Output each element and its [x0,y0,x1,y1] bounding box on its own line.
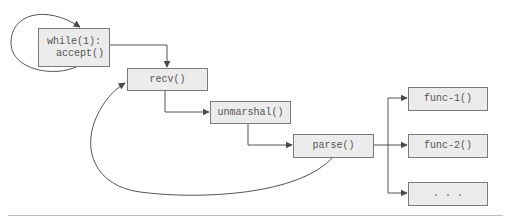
diagram-canvas: while(1): accept() recv() unmarshal() pa… [0,0,511,222]
accept-to-recv-arrow [109,45,167,67]
node-more-funcs-label: . . . [433,188,463,200]
node-accept-loop: while(1): accept() [38,28,110,67]
node-parse-label: parse() [312,140,354,152]
node-more-funcs: . . . [408,182,488,206]
bottom-divider [8,215,503,216]
node-recv-label: recv() [149,74,185,86]
node-recv: recv() [127,68,208,91]
node-unmarshal: unmarshal() [210,101,291,124]
node-accept-line-2: accept() [44,48,104,60]
node-func-1: func-1() [408,87,488,111]
node-unmarshal-label: unmarshal() [217,107,283,119]
node-func-1-label: func-1() [424,93,472,105]
recv-to-unmarshal-arrow [165,90,209,112]
node-parse: parse() [293,134,374,158]
node-func-2: func-2() [408,134,488,158]
node-accept-line-1: while(1): [47,36,101,48]
unmarshal-to-parse-arrow [248,123,292,145]
node-func-2-label: func-2() [424,140,472,152]
